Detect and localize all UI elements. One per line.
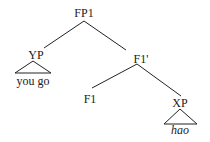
node-xp: XP [172,96,188,110]
edge-f1bar-xp [137,64,181,96]
node-yp-leaf: you go [17,74,50,88]
edge-fp1-f1bar [84,21,126,50]
yp-triangle [15,61,51,73]
node-xp-leaf: hao [171,123,189,137]
node-yp: YP [28,48,44,62]
edge-f1bar-f1 [92,64,137,88]
node-fp1: FP1 [74,6,93,20]
xp-triangle [164,109,197,124]
node-f1bar: F1' [134,52,149,66]
syntax-tree: FP1 YP you go F1' F1 XP hao [0,0,210,142]
edge-fp1-yp [44,21,84,48]
node-f1: F1 [84,92,97,106]
